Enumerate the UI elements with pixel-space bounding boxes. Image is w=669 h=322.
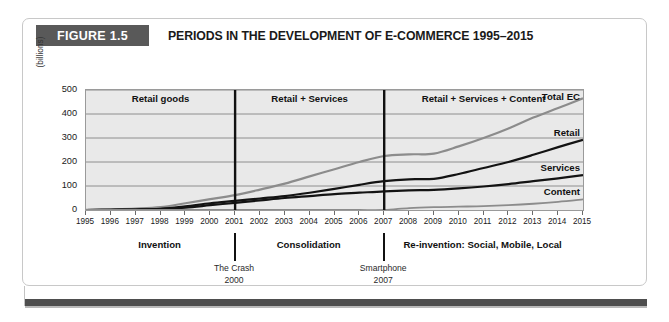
x-axis-tick-label: 2004: [300, 217, 318, 226]
y-axis-tick-label: 0: [47, 204, 77, 214]
x-axis-tick-label: 1997: [126, 217, 144, 226]
event-year: 2000: [214, 275, 254, 287]
series-line-total-ec: [86, 98, 583, 209]
y-axis-tick-label: 200: [47, 156, 77, 166]
y-axis-tick-label: 400: [47, 108, 77, 118]
y-axis-tick-label: 100: [47, 180, 77, 190]
figure-header: FIGURE 1.5 PERIODS IN THE DEVELOPMENT OF…: [23, 19, 646, 49]
phase-band-label: Retail + Services + Content: [422, 93, 546, 104]
x-axis-tick-label: 1998: [150, 217, 168, 226]
x-axis-tick-mark: [234, 211, 235, 215]
event-annotations: The Crash2000Smartphone2007: [85, 263, 584, 293]
phase-band-label: Retail + Services: [271, 93, 348, 104]
period-divider-2001: [234, 233, 236, 261]
x-axis-tick-mark: [334, 211, 335, 215]
y-axis-tick-label: 500: [47, 84, 77, 94]
event-note-2001: The Crash2000: [214, 263, 254, 286]
x-axis-tick-mark: [532, 211, 533, 215]
x-axis-tick-mark: [160, 211, 161, 215]
page-bottom-rule: [25, 299, 647, 306]
period-label: Re-invention: Social, Mobile, Local: [403, 239, 561, 250]
x-axis-tick-label: 1999: [175, 217, 193, 226]
x-axis-tick-mark: [259, 211, 260, 215]
x-axis-tick-label: 2000: [200, 217, 218, 226]
x-axis-tick-label: 2011: [474, 217, 492, 226]
x-axis-tick-label: 2005: [324, 217, 342, 226]
x-axis-tick-label: 2009: [424, 217, 442, 226]
x-axis-tick-label: 2012: [498, 217, 516, 226]
period-divider-2007: [383, 233, 385, 261]
x-axis-tick-mark: [110, 211, 111, 215]
phase-band-label: Retail goods: [132, 93, 190, 104]
series-label-services: Services: [541, 162, 580, 173]
x-axis-tick-mark: [184, 211, 185, 215]
x-axis-tick-label: 2006: [349, 217, 367, 226]
x-axis-tick-label: 2003: [275, 217, 293, 226]
x-axis-tick-mark: [507, 211, 508, 215]
x-axis-tick-label: 1995: [76, 217, 94, 226]
series-label-retail: Retail: [554, 127, 580, 138]
series-line-retail: [86, 140, 583, 210]
x-axis-tick-label: 2010: [449, 217, 467, 226]
x-axis-tick-label: 2014: [548, 217, 566, 226]
figure-card: FIGURE 1.5 PERIODS IN THE DEVELOPMENT OF…: [22, 18, 647, 286]
event-year: 2007: [360, 275, 407, 287]
x-axis-tick-mark: [433, 211, 434, 215]
y-axis-ticks: 0100200300400500: [47, 83, 77, 211]
figure-number-badge: FIGURE 1.5: [36, 25, 149, 46]
x-axis-tick-mark: [309, 211, 310, 215]
x-axis-tick-label: 1996: [101, 217, 119, 226]
period-label: Consolidation: [277, 239, 341, 250]
series-label-total-ec: Total EC: [542, 91, 580, 102]
x-axis-tick-mark: [458, 211, 459, 215]
x-axis-tick-mark: [582, 211, 583, 215]
x-axis-tick-label: 2015: [573, 217, 591, 226]
event-note-2007: Smartphone2007: [360, 263, 407, 286]
x-axis-tick-mark: [383, 211, 384, 215]
chart-svg: [86, 90, 583, 210]
x-axis-tick-mark: [85, 211, 86, 215]
plot-area: Retail goodsRetail + ServicesRetail + Se…: [85, 89, 584, 211]
series-label-content: Content: [544, 186, 580, 197]
y-axis-tick-label: 300: [47, 132, 77, 142]
x-axis-tick-label: 2008: [399, 217, 417, 226]
event-name: Smartphone: [360, 263, 407, 273]
figure-title: PERIODS IN THE DEVELOPMENT OF E-COMMERCE…: [168, 25, 533, 46]
event-name: The Crash: [214, 263, 254, 273]
x-axis-tick-mark: [557, 211, 558, 215]
x-axis-tick-mark: [483, 211, 484, 215]
x-axis-tick-mark: [135, 211, 136, 215]
period-band: InventionConsolidationRe-invention: Soci…: [85, 233, 584, 263]
x-axis-tick-mark: [358, 211, 359, 215]
period-label: Invention: [138, 239, 181, 250]
chart-container: (billions) 0100200300400500 Retail goods…: [33, 51, 638, 276]
x-axis-tick-label: 2013: [523, 217, 541, 226]
x-axis-tick-mark: [408, 211, 409, 215]
y-axis-label: (billions): [35, 17, 45, 87]
x-axis-tick-label: 2001: [225, 217, 243, 226]
x-axis-tick-label: 2007: [374, 217, 392, 226]
x-axis-tick-label: 2002: [250, 217, 268, 226]
x-axis: 1995199619971998199920002001200220032004…: [85, 211, 584, 233]
x-axis-tick-mark: [209, 211, 210, 215]
x-axis-tick-mark: [284, 211, 285, 215]
